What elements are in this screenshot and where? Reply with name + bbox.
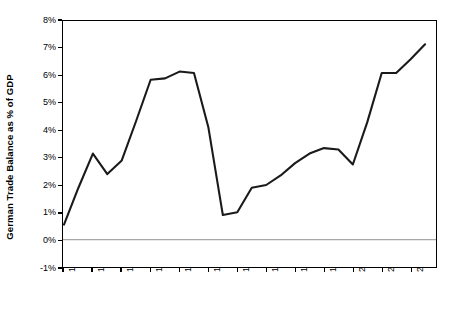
y-tick-label: 5% (26, 98, 56, 107)
y-tick-label: 3% (26, 153, 56, 162)
y-tick-label: -1% (26, 264, 56, 273)
x-tick-mark (150, 268, 151, 272)
x-tick-mark (120, 268, 121, 272)
plot-area (62, 20, 437, 268)
x-tick-mark (295, 268, 296, 272)
y-tick-label: 6% (26, 71, 56, 80)
x-tick-mark (91, 268, 92, 272)
y-tick-label: 1% (26, 208, 56, 217)
y-tick-label: 7% (26, 43, 56, 52)
y-tick-label: 8% (26, 16, 56, 25)
x-tick-mark (353, 268, 354, 272)
x-tick-mark (62, 268, 63, 272)
data-series-line (64, 44, 425, 224)
y-axis-title: German Trade Balance as % of GDP (0, 0, 18, 314)
y-tick-label: 4% (26, 126, 56, 135)
x-tick-mark (382, 268, 383, 272)
x-tick-mark (411, 268, 412, 272)
x-tick-mark (324, 268, 325, 272)
line-chart-svg (63, 21, 436, 267)
x-tick-mark (237, 268, 238, 272)
y-tick-label: 0% (26, 236, 56, 245)
chart-figure: German Trade Balance as % of GDP 8%7%6%5… (0, 0, 455, 314)
y-tick-label: 2% (26, 181, 56, 190)
x-tick-mark (266, 268, 267, 272)
x-tick-mark (208, 268, 209, 272)
x-tick-mark (179, 268, 180, 272)
